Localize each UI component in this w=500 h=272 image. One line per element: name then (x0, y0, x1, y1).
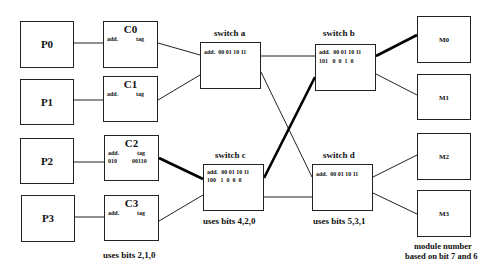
cache-tag-label: tag (137, 210, 145, 216)
cache-add-label: add. (107, 91, 118, 97)
cache-tag-label: tag (136, 36, 144, 42)
cache-label: C2 (105, 137, 158, 149)
cache-add-label: add. (107, 36, 118, 42)
module-caption-line1: module number (414, 241, 472, 251)
cache-tag-label: tag (136, 91, 144, 97)
module-label: M1 (418, 94, 470, 102)
cache-label: C0 (104, 23, 157, 35)
switch-a: add. 00 01 10 11 (200, 42, 261, 89)
cache-tag-value: 00110 (132, 158, 147, 164)
processor-label: P3 (22, 212, 74, 224)
switch-a-title: switch a (214, 28, 245, 38)
cache-add-value: 010 (108, 158, 117, 164)
cache-c0: C0 add. tag (103, 21, 158, 68)
cache-label: C1 (104, 78, 157, 90)
switch-header: add. 00 01 10 11 (204, 49, 246, 55)
cache-c1: C1 add. tag (103, 76, 158, 122)
switch-route-row: 101 0 0 1 0 (319, 58, 354, 64)
processor-label: P0 (21, 38, 73, 50)
module-caption-line2: based on bit 7 and 6 (405, 251, 478, 261)
processor-label: P2 (21, 155, 73, 167)
switch-route-row: 100 1 0 0 0 (207, 177, 242, 183)
cache-c3: C3 add. tag (104, 195, 159, 241)
switch-header: add. 00 01 10 11 (319, 49, 361, 55)
switch-b-title: switch b (323, 28, 355, 38)
switch-header: add. 00 01 10 11 (207, 169, 249, 175)
switch-b: add. 00 01 10 11 101 0 0 1 0 (315, 44, 376, 91)
module-label: M0 (418, 36, 470, 44)
processor-label: P1 (21, 96, 73, 108)
cache-label: C3 (105, 197, 158, 209)
switch-header: add. 00 01 10 11 (316, 171, 358, 177)
processor-p1: P1 (20, 79, 74, 125)
cache-add-label: add. (108, 150, 119, 156)
module-m1: M1 (417, 74, 471, 120)
cache-caption: uses bits 2,1,0 (103, 250, 156, 260)
module-label: M2 (418, 153, 470, 161)
cache-c2: C2 add. tag 010 00110 (104, 135, 159, 181)
switch-c-title: switch c (215, 150, 246, 160)
processor-p3: P3 (21, 195, 75, 242)
processor-p2: P2 (20, 138, 74, 184)
switch-d-caption: uses bits 5,3,1 (313, 216, 366, 226)
module-m2: M2 (417, 133, 471, 180)
switch-d: add. 00 01 10 11 (312, 164, 373, 211)
module-m3: M3 (417, 190, 471, 237)
cache-tag-label: tag (137, 150, 145, 156)
module-label: M3 (418, 210, 470, 218)
module-m0: M0 (417, 16, 471, 63)
processor-p0: P0 (20, 21, 74, 68)
switch-c: add. 00 01 10 11 100 1 0 0 0 (203, 164, 264, 211)
switch-c-caption: uses bits 4,2,0 (203, 216, 256, 226)
switch-d-title: switch d (323, 150, 355, 160)
cache-add-label: add. (108, 210, 119, 216)
